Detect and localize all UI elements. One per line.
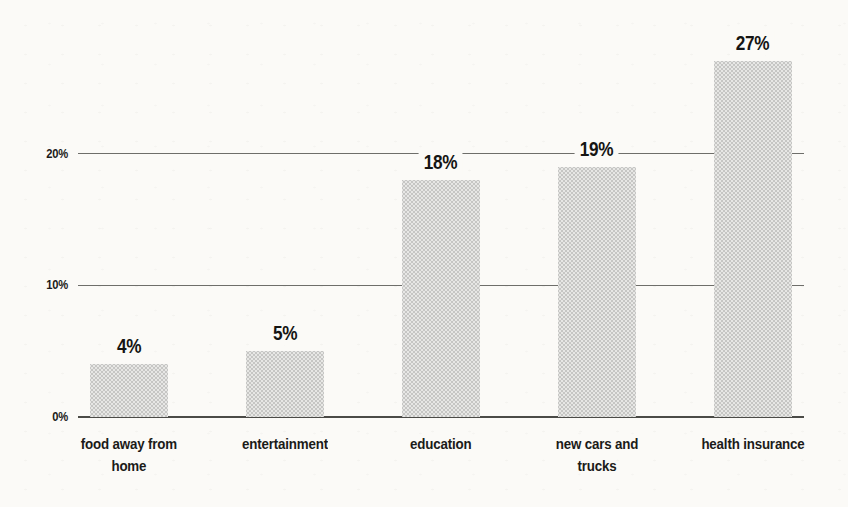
bar-health-insurance bbox=[714, 61, 792, 417]
value-label-food-away-from-home: 4% bbox=[112, 334, 147, 358]
bar-chart: 0%10%20%4%food away from home5%entertain… bbox=[0, 0, 848, 507]
value-label-wrap-education: 18% bbox=[371, 150, 511, 176]
y-tick-label-0: 0% bbox=[13, 407, 68, 427]
category-label-wrap-new-cars-and-trucks: new cars and trucks bbox=[509, 433, 685, 477]
category-label-education: education bbox=[410, 433, 471, 455]
value-label-wrap-new-cars-and-trucks: 19% bbox=[527, 137, 667, 163]
value-label-wrap-food-away-from-home: 4% bbox=[59, 334, 199, 360]
value-label-education: 18% bbox=[419, 150, 463, 174]
category-label-new-cars-and-trucks: new cars and trucks bbox=[555, 433, 637, 477]
category-label-food-away-from-home: food away from home bbox=[81, 433, 177, 477]
category-label-entertainment: entertainment bbox=[242, 433, 328, 455]
bar-entertainment bbox=[246, 351, 324, 417]
value-label-health-insurance: 27% bbox=[731, 31, 775, 55]
value-label-entertainment: 5% bbox=[268, 321, 303, 345]
value-label-wrap-health-insurance: 27% bbox=[683, 31, 823, 57]
value-label-new-cars-and-trucks: 19% bbox=[575, 137, 619, 161]
value-label-wrap-entertainment: 5% bbox=[215, 321, 355, 347]
category-label-wrap-education: education bbox=[353, 433, 529, 455]
y-tick-label-20: 20% bbox=[13, 144, 68, 164]
bar-education bbox=[402, 180, 480, 417]
bar-food-away-from-home bbox=[90, 364, 168, 417]
category-label-wrap-entertainment: entertainment bbox=[197, 433, 373, 455]
y-tick-label-10: 10% bbox=[13, 275, 68, 295]
bar-new-cars-and-trucks bbox=[558, 167, 636, 417]
category-label-wrap-food-away-from-home: food away from home bbox=[41, 433, 217, 477]
category-label-health-insurance: health insurance bbox=[701, 433, 804, 455]
category-label-wrap-health-insurance: health insurance bbox=[665, 433, 841, 455]
